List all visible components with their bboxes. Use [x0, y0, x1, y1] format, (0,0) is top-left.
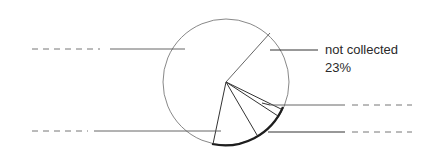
slice-label-not-collected: not collected: [325, 42, 398, 57]
pie-chart: [0, 0, 437, 158]
slice-value-not-collected: 23%: [325, 60, 351, 75]
